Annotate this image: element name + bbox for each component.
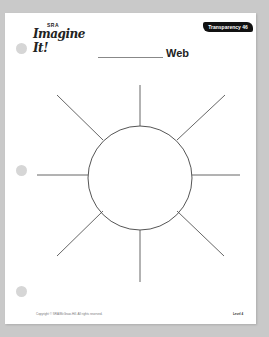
web-diagram — [0, 0, 269, 337]
web-center-circle — [88, 126, 192, 230]
web-spoke-top-right — [177, 95, 225, 140]
copyright-text: Copyright © SRA/McGraw-Hill. All rights … — [36, 312, 102, 316]
level-label: Level 4 — [233, 312, 243, 316]
web-spoke-top-left — [57, 95, 103, 140]
web-spoke-bottom-left — [57, 211, 103, 256]
web-spoke-bottom-right — [177, 211, 224, 256]
